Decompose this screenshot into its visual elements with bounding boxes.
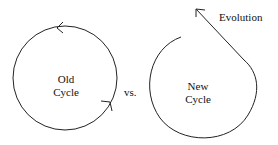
new-cycle-label: New Cycle [178, 80, 218, 106]
versus-label: vs. [124, 86, 137, 99]
new-cycle-spiral [150, 9, 257, 138]
new-cycle-label-line2: Cycle [178, 93, 218, 106]
old-cycle-label-line2: Cycle [46, 86, 86, 99]
old-cycle-top-arrow-icon [57, 22, 63, 33]
old-cycle-label: Old Cycle [46, 73, 86, 99]
diagram-canvas: Old Cycle vs. New Cycle Evolution [0, 0, 278, 145]
new-cycle-label-line1: New [178, 80, 218, 93]
old-cycle-label-line1: Old [46, 73, 86, 86]
evolution-label: Evolution [219, 11, 262, 24]
